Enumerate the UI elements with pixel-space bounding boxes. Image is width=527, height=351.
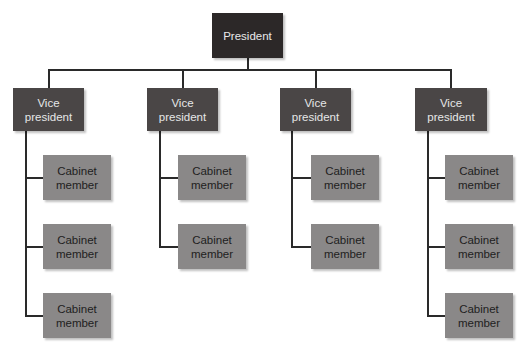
vp3-branch-2 xyxy=(291,246,311,248)
vp-label: Vice president xyxy=(292,96,339,124)
vp3-branch-1 xyxy=(291,177,311,179)
vp4-drop xyxy=(450,69,452,88)
vp-bus xyxy=(48,69,452,71)
vp3-spine xyxy=(291,131,293,248)
vp-node-1: Vice president xyxy=(13,88,84,131)
cabinet-label: Cabinet member xyxy=(191,233,233,261)
vp-node-2: Vice president xyxy=(147,88,218,131)
vp2-spine xyxy=(159,131,161,248)
president-node: President xyxy=(212,13,283,58)
vp3-drop xyxy=(315,69,317,88)
vp-label: Vice president xyxy=(25,96,72,124)
cabinet-node: Cabinet member xyxy=(43,293,111,338)
vp1-branch-3 xyxy=(25,315,43,317)
vp-node-4: Vice president xyxy=(415,88,487,131)
vp4-branch-2 xyxy=(427,246,445,248)
cabinet-label: Cabinet member xyxy=(56,233,98,261)
president-label: President xyxy=(223,29,272,43)
vp4-branch-1 xyxy=(427,177,445,179)
vp4-spine xyxy=(427,131,429,317)
vp-node-3: Vice president xyxy=(280,88,351,131)
cabinet-label: Cabinet member xyxy=(324,233,366,261)
vp1-branch-1 xyxy=(25,177,43,179)
vp2-drop xyxy=(182,69,184,88)
vp1-branch-2 xyxy=(25,246,43,248)
cabinet-node: Cabinet member xyxy=(43,224,111,269)
vp-label: Vice president xyxy=(159,96,206,124)
cabinet-node: Cabinet member xyxy=(178,224,246,269)
vp2-branch-1 xyxy=(159,177,178,179)
cabinet-label: Cabinet member xyxy=(458,164,500,192)
cabinet-label: Cabinet member xyxy=(56,302,98,330)
cabinet-label: Cabinet member xyxy=(458,302,500,330)
cabinet-label: Cabinet member xyxy=(56,164,98,192)
cabinet-node: Cabinet member xyxy=(311,155,379,200)
cabinet-node: Cabinet member xyxy=(445,155,513,200)
cabinet-node: Cabinet member xyxy=(445,293,513,338)
vp4-branch-3 xyxy=(427,315,445,317)
cabinet-node: Cabinet member xyxy=(311,224,379,269)
cabinet-node: Cabinet member xyxy=(43,155,111,200)
vp1-spine xyxy=(25,131,27,317)
vp2-branch-2 xyxy=(159,246,178,248)
cabinet-node: Cabinet member xyxy=(178,155,246,200)
cabinet-node: Cabinet member xyxy=(445,224,513,269)
vp1-drop xyxy=(48,69,50,88)
vp-label: Vice president xyxy=(427,96,474,124)
cabinet-label: Cabinet member xyxy=(191,164,233,192)
cabinet-label: Cabinet member xyxy=(458,233,500,261)
cabinet-label: Cabinet member xyxy=(324,164,366,192)
